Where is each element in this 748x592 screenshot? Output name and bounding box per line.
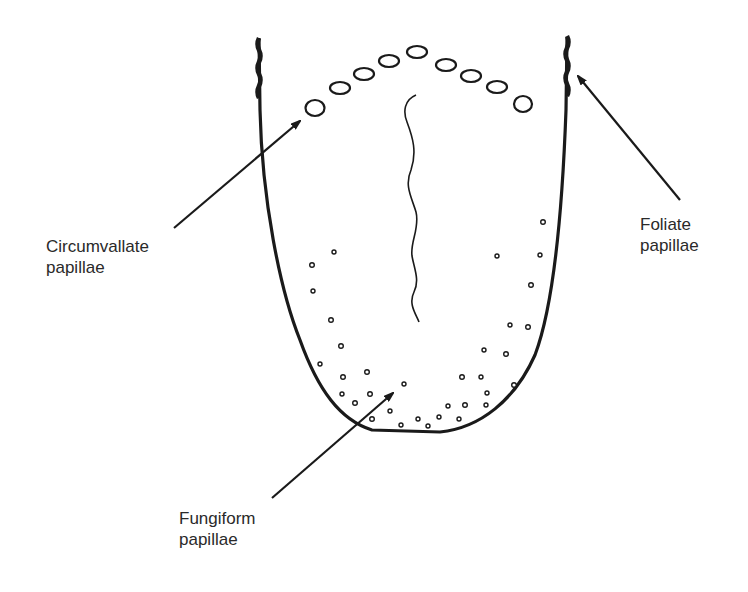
circumvallate-papillae (306, 46, 533, 116)
circumvallate-label-line2: papillae (46, 257, 149, 278)
foliate-label-line2: papillae (640, 235, 699, 256)
tongue-diagram (0, 0, 748, 592)
fungiform-label: Fungiform papillae (179, 508, 256, 550)
foliate-label-line1: Foliate (640, 214, 699, 235)
median-sulcus (405, 95, 419, 322)
circumvallate-label-line1: Circumvallate (46, 236, 149, 257)
fungiform-label-line1: Fungiform (179, 508, 256, 529)
foliate-arrow (578, 76, 680, 200)
fungiform-label-line2: papillae (179, 529, 256, 550)
foliate-label: Foliate papillae (640, 214, 699, 256)
circumvallate-arrow (174, 121, 300, 228)
circumvallate-label: Circumvallate papillae (46, 236, 149, 278)
fungiform-arrow (272, 393, 393, 498)
